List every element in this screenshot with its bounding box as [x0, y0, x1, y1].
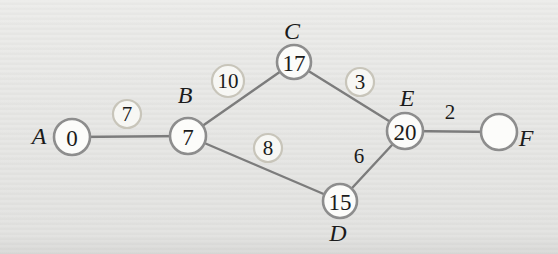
node-label-F: F	[518, 125, 534, 151]
edge-weight-B-D: 8	[263, 136, 274, 160]
node-label-C: C	[284, 18, 301, 44]
edge-weight-B-C: 10	[218, 69, 239, 93]
edge-weight-E-F: 2	[445, 100, 456, 124]
node-label-B: B	[178, 82, 193, 108]
edge-weight-A-B: 7	[122, 102, 133, 126]
node-value-B: 7	[182, 125, 194, 150]
graph-figure: 7108362 07171520 ABCDEF	[0, 0, 558, 254]
edge-weight-C-E: 3	[355, 70, 366, 94]
node-F	[481, 114, 517, 150]
node-value-D: 15	[329, 190, 352, 215]
node-value-E: 20	[394, 120, 417, 145]
node-value-A: 0	[66, 126, 78, 151]
node-label-D: D	[328, 220, 346, 246]
edge-weight-D-E: 6	[354, 144, 365, 168]
edges-layer	[72, 62, 499, 201]
node-value-C: 17	[283, 51, 306, 76]
weighted-graph-diagram: 7108362 07171520 ABCDEF	[0, 0, 558, 254]
node-label-E: E	[399, 85, 415, 111]
node-label-A: A	[30, 123, 47, 149]
